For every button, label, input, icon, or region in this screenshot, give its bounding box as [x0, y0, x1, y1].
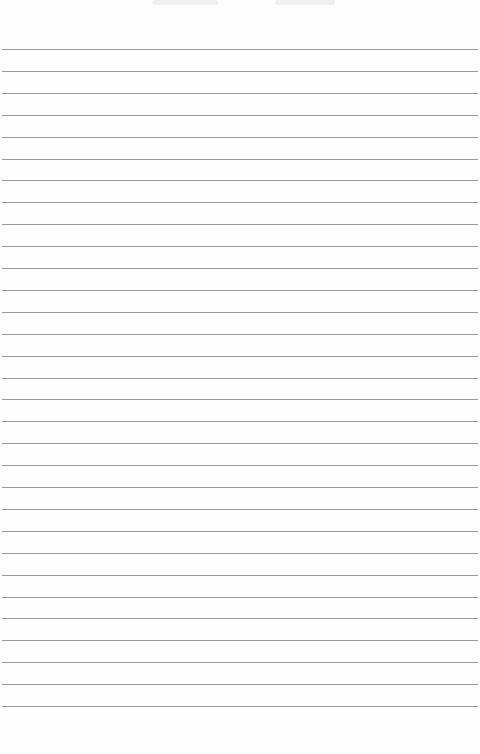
ruled-line	[2, 684, 478, 685]
ruled-line	[2, 180, 478, 181]
ruled-line	[2, 706, 478, 707]
top-edge-artifact	[275, 0, 335, 5]
ruled-line	[2, 465, 478, 466]
ruled-line	[2, 443, 478, 444]
ruled-line	[2, 531, 478, 532]
notepad-paper[interactable]	[0, 0, 480, 754]
ruled-line	[2, 115, 478, 116]
ruled-line	[2, 290, 478, 291]
ruled-line	[2, 378, 478, 379]
ruled-line	[2, 356, 478, 357]
ruled-line	[2, 71, 478, 72]
ruled-line	[2, 334, 478, 335]
ruled-line	[2, 640, 478, 641]
top-edge-artifact	[152, 0, 218, 5]
ruled-line	[2, 399, 478, 400]
ruled-line	[2, 421, 478, 422]
ruled-line	[2, 49, 478, 50]
ruled-line	[2, 159, 478, 160]
ruled-line	[2, 224, 478, 225]
ruled-line	[2, 553, 478, 554]
ruled-line	[2, 597, 478, 598]
ruled-line	[2, 509, 478, 510]
ruled-line	[2, 312, 478, 313]
ruled-line	[2, 487, 478, 488]
ruled-line	[2, 137, 478, 138]
ruled-line	[2, 618, 478, 619]
ruled-line	[2, 246, 478, 247]
ruled-line	[2, 575, 478, 576]
ruled-line	[2, 202, 478, 203]
ruled-line	[2, 662, 478, 663]
ruled-line	[2, 268, 478, 269]
ruled-line	[2, 93, 478, 94]
